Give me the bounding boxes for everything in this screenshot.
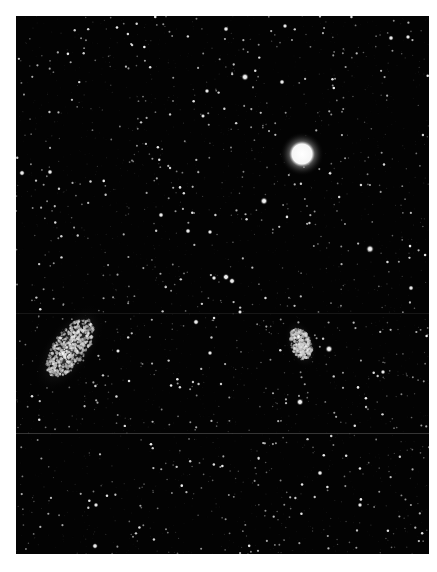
scan-line — [16, 433, 429, 434]
night-sky-photo — [16, 16, 429, 554]
starfield-canvas — [16, 16, 429, 554]
scan-line — [16, 313, 429, 314]
